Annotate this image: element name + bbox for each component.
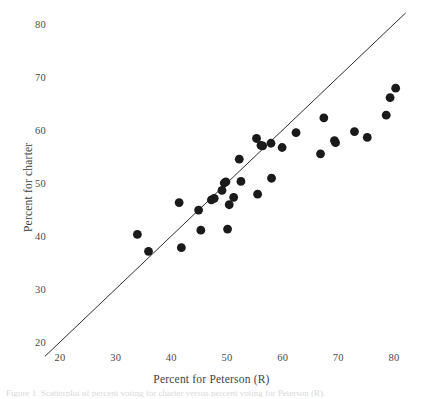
- data-point: [235, 155, 244, 164]
- data-point: [363, 133, 372, 142]
- data-point: [258, 142, 267, 151]
- y-axis-title: Percent for charter: [22, 143, 34, 232]
- data-point: [237, 177, 246, 186]
- data-point: [225, 200, 234, 209]
- x-tick-label: 40: [166, 352, 177, 363]
- plot-canvas: [0, 0, 423, 399]
- x-tick-label: 60: [277, 352, 288, 363]
- x-axis-title: Percent for Peterson (R): [0, 373, 423, 385]
- data-point: [210, 194, 219, 203]
- data-point: [218, 186, 227, 195]
- data-point: [267, 174, 276, 183]
- data-point: [319, 113, 328, 122]
- data-point: [196, 226, 205, 235]
- x-tick-label: 50: [221, 352, 232, 363]
- data-point: [223, 225, 232, 234]
- y-tick-label: 70: [22, 72, 46, 83]
- data-point: [386, 93, 395, 102]
- data-point: [144, 247, 153, 256]
- x-tick-label: 80: [388, 352, 399, 363]
- y-tick-label: 40: [22, 231, 46, 242]
- data-point: [292, 128, 301, 137]
- data-point: [221, 178, 230, 187]
- scatter-plot-figure: 20304050607080 20304050607080 Percent fo…: [0, 0, 423, 399]
- data-point: [133, 230, 142, 239]
- data-point: [229, 193, 238, 202]
- data-point: [316, 149, 325, 158]
- data-point: [253, 190, 262, 199]
- y-tick-label: 80: [22, 19, 46, 30]
- data-point: [391, 84, 400, 93]
- x-tick-label: 20: [54, 352, 65, 363]
- data-point: [175, 198, 184, 207]
- y-tick-label: 20: [22, 337, 46, 348]
- y-tick-label: 30: [22, 284, 46, 295]
- figure-caption-sliver: Figure 1. Scatterplot of percent voting …: [6, 388, 346, 397]
- data-point: [267, 139, 276, 148]
- x-tick-label: 30: [110, 352, 121, 363]
- y-tick-label: 60: [22, 125, 46, 136]
- data-points-group: [133, 84, 400, 256]
- data-point: [278, 143, 287, 152]
- x-tick-label: 70: [333, 352, 344, 363]
- data-point: [382, 111, 391, 120]
- data-point: [194, 206, 203, 215]
- data-point: [331, 138, 340, 147]
- data-point: [177, 243, 186, 252]
- data-point: [350, 127, 359, 136]
